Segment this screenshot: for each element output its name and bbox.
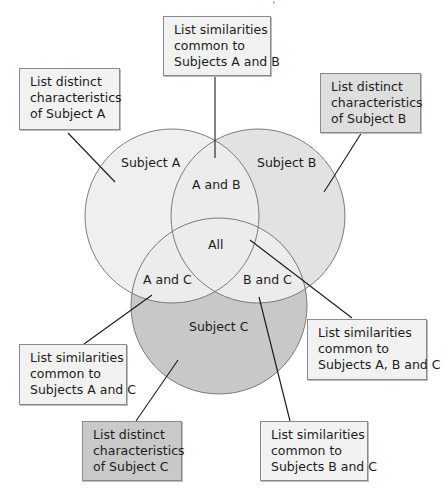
leader-c [136, 360, 178, 421]
box-line: characteristics [30, 90, 112, 106]
box-line: characteristics [93, 443, 174, 459]
box-line: common to [271, 443, 360, 459]
box-similarities-a-c: List similarities common to Subjects A a… [19, 344, 127, 405]
box-line: characteristics [331, 95, 413, 111]
label-subject-a: Subject A [121, 155, 181, 170]
label-b-and-c: B and C [243, 272, 292, 287]
box-line: Subjects A and B [174, 54, 263, 70]
box-line: List similarities [318, 325, 419, 341]
box-similarities-a-b-c: List similarities common to Subjects A, … [307, 319, 427, 380]
box-line: Subjects B and C [271, 459, 360, 475]
box-distinct-c: List distinct characteristics of Subject… [82, 421, 182, 481]
box-line: of Subject C [93, 459, 174, 475]
box-distinct-a: List distinct characteristics of Subject… [19, 68, 120, 130]
box-line: List similarities [271, 427, 360, 443]
label-all: All [208, 237, 224, 252]
box-line: List distinct [93, 427, 174, 443]
box-line: List distinct [30, 74, 112, 90]
box-line: List similarities [174, 22, 263, 38]
box-line: List similarities [30, 350, 119, 366]
label-subject-b: Subject B [257, 155, 316, 170]
label-subject-c: Subject C [189, 319, 249, 334]
box-similarities-a-b: List similarities common to Subjects A a… [163, 16, 271, 76]
box-line: common to [174, 38, 263, 54]
leader-b [324, 132, 362, 192]
cropped-caption-fragment: · , · [260, 0, 291, 5]
box-line: of Subject B [331, 111, 413, 127]
label-a-and-b: A and B [192, 177, 241, 192]
label-a-and-c: A and C [143, 272, 192, 287]
box-line: Subjects A and C [30, 382, 119, 398]
box-line: Subjects A, B and C [318, 357, 419, 373]
box-line: common to [30, 366, 119, 382]
box-line: List distinct [331, 79, 413, 95]
box-line: of Subject A [30, 106, 112, 122]
box-distinct-b: List distinct characteristics of Subject… [320, 73, 421, 133]
box-similarities-b-c: List similarities common to Subjects B a… [260, 421, 368, 481]
box-line: common to [318, 341, 419, 357]
